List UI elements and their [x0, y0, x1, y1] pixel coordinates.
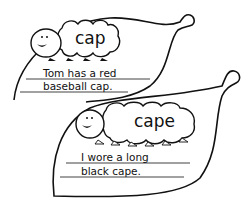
vocab-word: cape: [134, 111, 175, 131]
sentence-line-1: I wore a long: [81, 151, 149, 163]
sentence-line-2: black cape.: [81, 165, 141, 177]
vocab-word: cap: [75, 28, 106, 48]
sentence-line-1: Tom has a red: [42, 67, 117, 79]
worksheet-illustration: cap Tom has a red baseball cap. cape I w…: [0, 0, 248, 204]
sentence-line-2: baseball cap.: [43, 80, 113, 92]
leaf-card-cap: cap Tom has a red baseball cap.: [14, 15, 194, 102]
